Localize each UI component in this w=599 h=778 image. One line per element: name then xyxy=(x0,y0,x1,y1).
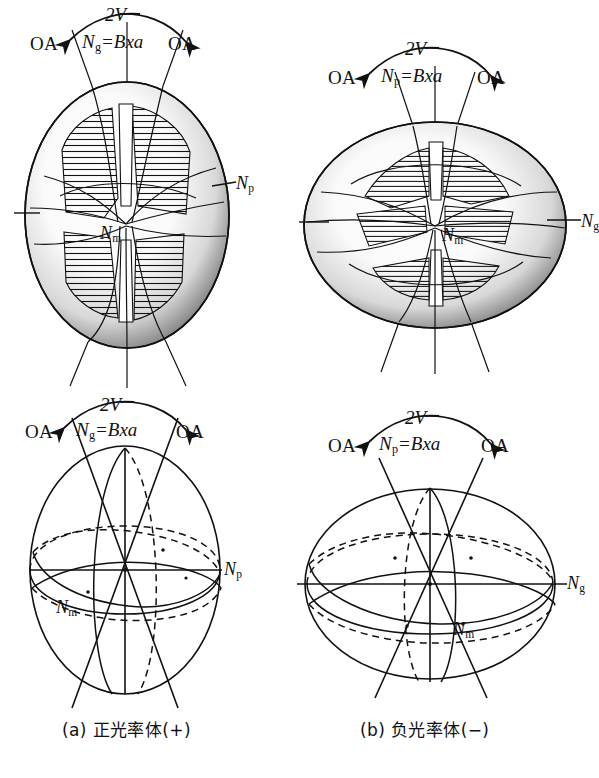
panel-b-solid-svg xyxy=(295,0,595,390)
panel-a-wire-nm-sub: m xyxy=(68,606,77,618)
panel-a-wire-np-label: Np xyxy=(224,560,242,581)
panel-b-wire-nm-label: Nm xyxy=(453,620,474,641)
panel-a-wire-bxa-eq: =Bxa xyxy=(95,419,137,440)
panel-a-wire-nm-label: Nm xyxy=(56,598,77,619)
panel-a-wire-nodes xyxy=(86,548,187,594)
panel-b-ng-label: Ng xyxy=(581,212,599,233)
panel-b-axis-strip-lower xyxy=(429,250,443,306)
panel-b-oa-left-label: OA xyxy=(328,68,356,87)
panel-a-wire-bxa-n: N xyxy=(76,419,89,440)
panel-b-bxa-eq: =Bxa xyxy=(400,65,442,86)
panel-b-wire-2v-label: 2V xyxy=(405,408,426,427)
panel-b-oa-right-label: OA xyxy=(477,68,505,87)
panel-a-np-n: N xyxy=(236,173,248,193)
panel-a-nm-label: Nm xyxy=(100,224,121,245)
panel-a-wire-2v-label: 2V xyxy=(100,395,121,414)
panel-a-solid-svg xyxy=(0,0,300,390)
panel-b-wire-oa-left-label: OA xyxy=(328,436,356,455)
panel-a-wire-np-n: N xyxy=(224,559,236,579)
panel-a-oa-left-label: OA xyxy=(30,34,58,53)
panel-b-nm-label: Nm xyxy=(442,226,463,247)
panel-b-ng-n: N xyxy=(581,211,593,231)
panel-a-wireframe-indicatrix: OA OA 2V Ng=Bxa Np Nm xyxy=(0,392,300,712)
panel-b-caption: (b) 负光率体(−) xyxy=(360,722,489,739)
panel-a-wire-meridian-left xyxy=(94,448,125,694)
panel-a-wire-oa-left-label: OA xyxy=(25,422,53,441)
panel-a-caption-text: (a) 正光率体(+) xyxy=(62,720,191,740)
panel-b-wire-ng-n: N xyxy=(567,573,579,593)
panel-b-wireframe-indicatrix: OA OA 2V Np=Bxa Ng Nm xyxy=(295,392,595,712)
panel-b-wire-bxa-eq: =Bxa xyxy=(398,433,440,454)
panel-a-bxa-n: N xyxy=(82,31,95,52)
panel-a-wire-nm-n: N xyxy=(56,597,68,617)
panel-b-wire-oa-right-label: OA xyxy=(481,436,509,455)
panel-a-wire-oa-right-label: OA xyxy=(176,422,204,441)
panel-b-wire-bxa-n: N xyxy=(379,433,392,454)
panel-a-wire-np-sub: p xyxy=(236,568,242,580)
panel-b-wire-bxa-label: Np=Bxa xyxy=(379,434,440,456)
panel-a-2v-label: 2V xyxy=(105,5,126,24)
panel-b-wire-ng-sub: g xyxy=(579,582,585,594)
panel-a-nm-sub: m xyxy=(112,232,121,244)
panel-a-wire-meridian-right xyxy=(125,448,156,694)
panel-a-np-sub: p xyxy=(248,182,254,194)
panel-a-caption: (a) 正光率体(+) xyxy=(62,722,191,739)
panel-b-bxa-n: N xyxy=(381,65,394,86)
panel-b-nm-n: N xyxy=(442,225,454,245)
panel-b-wire-ng-label: Ng xyxy=(567,574,585,595)
panel-b-caption-text: (b) 负光率体(−) xyxy=(360,720,489,740)
panel-b-wire-nm-n: N xyxy=(453,619,465,639)
panel-b-nm-sub: m xyxy=(454,234,463,246)
panel-b-bxa-label: Np=Bxa xyxy=(381,66,442,88)
panel-b-wire-meridian-right xyxy=(430,488,456,682)
panel-b-ng-sub: g xyxy=(593,220,599,232)
panel-a-nm-n: N xyxy=(100,223,112,243)
panel-a-solid-indicatrix: OA OA 2V Ng=Bxa Np Nm xyxy=(0,0,300,390)
panel-b-2v-label: 2V xyxy=(405,39,426,58)
panel-a-bxa-label: Ng=Bxa xyxy=(82,32,143,54)
panel-a-np-label: Np xyxy=(236,174,254,195)
panel-a-bxa-eq: =Bxa xyxy=(101,31,143,52)
panel-a-axis-strip-upper xyxy=(119,104,133,206)
panel-a-wire-bxa-label: Ng=Bxa xyxy=(76,420,137,442)
panel-b-wire-nm-sub: m xyxy=(465,628,474,640)
panel-b-solid-indicatrix: OA OA 2V Np=Bxa Ng Nm xyxy=(295,0,595,390)
panel-b-axis-strip-upper xyxy=(429,142,443,200)
panel-a-oa-right-label: OA xyxy=(168,34,196,53)
